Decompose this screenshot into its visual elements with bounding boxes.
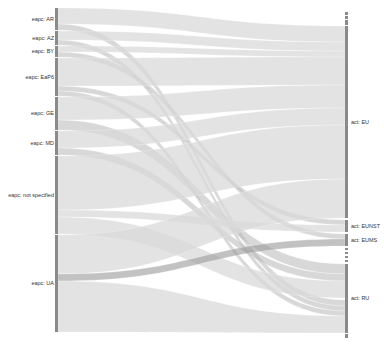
node-bar	[345, 26, 348, 218]
node-bar	[345, 260, 348, 262]
node-bar	[345, 334, 348, 338]
right-node-label: act: EUMS	[351, 237, 377, 244]
node-bar	[55, 31, 58, 45]
flow-link	[58, 57, 345, 86]
node-bar	[345, 252, 348, 254]
left-node-label: eapc: AZ	[32, 35, 54, 42]
node-bar	[55, 8, 58, 30]
node-bar	[55, 46, 58, 57]
node-bar	[345, 12, 348, 15]
flow-links	[58, 8, 345, 333]
right-node-label: act: RU	[351, 295, 369, 302]
left-node-bars	[55, 8, 58, 332]
node-bar	[55, 58, 58, 96]
left-node-label: eapc: MD	[30, 140, 54, 147]
node-bar	[345, 264, 348, 333]
left-node-label: eapc: BY	[32, 48, 54, 55]
right-node-label: act: EUNST	[351, 223, 380, 230]
node-bar	[55, 235, 58, 332]
node-bar	[345, 234, 348, 246]
left-node-label: eapc: not specified	[8, 192, 54, 199]
node-bar	[345, 248, 348, 250]
right-node-bars	[345, 12, 348, 338]
left-node-label: eapc: AR	[32, 16, 54, 23]
left-node-label: eapc: GE	[31, 110, 54, 117]
node-bar	[55, 97, 58, 130]
node-bar	[345, 20, 348, 25]
sankey-diagram	[0, 0, 385, 342]
node-bar	[345, 16, 348, 19]
node-bar	[55, 156, 58, 234]
right-node-label: act: EU	[351, 119, 369, 126]
left-node-label: eapc: EaP6	[26, 74, 54, 81]
node-bar	[345, 220, 348, 232]
left-node-label: eapc: UA	[31, 280, 54, 287]
node-bar	[345, 256, 348, 258]
node-bar	[55, 131, 58, 155]
